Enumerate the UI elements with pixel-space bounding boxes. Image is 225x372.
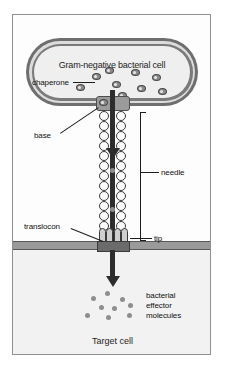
needle-subunit [99,201,109,211]
needle-subunit [116,111,126,121]
needle-subunit [116,131,126,141]
effector-molecule [105,291,110,296]
effector-in-needle [110,168,115,173]
chaperone-molecule [131,69,140,76]
effector-molecule [127,313,132,318]
chaperone-molecule [158,88,167,95]
needle-subunit [116,201,126,211]
effector-molecule [128,303,133,308]
translocon-label: translocon [24,222,60,231]
needle-label: needle [161,168,184,177]
effector-molecule [112,306,117,311]
needle-subunit [99,161,109,171]
needle-subunit [99,111,109,121]
needle-bracket-bottom [140,240,146,241]
needle-subunit [116,171,126,181]
base-label: base [34,131,51,140]
chaperone-molecule [137,85,146,92]
effector-molecule [99,305,104,310]
needle-subunit [99,121,109,131]
needle-label-leader [140,172,159,173]
tip-label: tip [154,234,162,243]
secretion-arrow-shaft-upper [110,110,115,150]
needle-bracket-vertical [140,112,141,240]
diagram-canvas: Gram-negative bacterial cell chaperone b… [0,0,225,372]
chaperone-molecule [112,81,121,88]
chaperone-label: chaperone [32,78,69,87]
needle-subunit [116,121,126,131]
needle-subunit [116,191,126,201]
effector-molecules-label-line1: bacterial [146,291,175,301]
tip-label-leader [130,238,152,239]
target-cell-title: Target cell [0,336,225,346]
chaperone-leader-line [73,82,95,83]
needle-subunit [116,181,126,191]
effector-in-needle [110,207,115,212]
effector-molecule [85,313,90,318]
needle-subunit [116,211,126,221]
chaperone-molecule [152,74,161,81]
effector-molecule [120,297,125,302]
chaperone-molecule [105,67,114,74]
injection-arrow-head [106,276,120,287]
needle-subunit [99,131,109,141]
needle-subunit [99,211,109,221]
effector-molecules-label-line3: molecules [146,311,181,321]
effector-molecule [91,296,96,301]
needle-subunit [116,161,126,171]
effector-molecules-label-line2: effector [146,301,172,311]
chaperone-molecule [92,73,101,80]
effector-molecule [106,315,111,320]
chaperone-at-base [99,99,108,106]
needle-bracket-top [140,112,146,113]
needle-subunit [99,181,109,191]
needle-subunit [99,191,109,201]
needle-subunit [99,171,109,181]
injection-arrow-shaft [110,250,115,278]
secretion-arrow-head-upper [106,148,120,159]
chaperone-molecule [76,84,85,91]
